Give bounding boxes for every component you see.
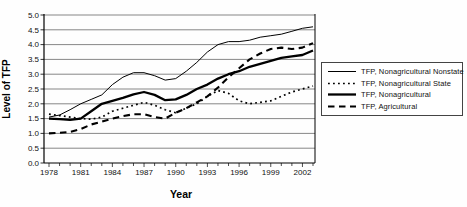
legend-label: TFP, Agricultural (361, 102, 417, 111)
legend-item: TFP, Agricultural (327, 101, 459, 112)
x-tick-label: 2002 (294, 168, 312, 177)
legend-item: TFP, Nonagricultural (327, 89, 459, 100)
legend-line-sample-thick-solid (327, 90, 357, 99)
y-tick-label: 4.0 (28, 40, 40, 49)
legend-line-sample-thin-solid (327, 67, 357, 76)
x-tick-label: 1978 (40, 168, 58, 177)
x-tick-label: 1993 (199, 168, 217, 177)
legend-item: TFP, Nonagricultural Nonstate (327, 66, 459, 77)
y-tick-label: 3.5 (28, 55, 40, 64)
chart-plot-area: 0.00.51.01.52.02.53.03.54.04.55.01978198… (28, 11, 315, 177)
tfp-line-chart-figure: 0.00.51.01.52.02.53.03.54.04.55.01978198… (0, 0, 467, 207)
legend-label: TFP, Nonagricultural State (361, 79, 451, 88)
y-tick-label: 1.5 (28, 114, 40, 123)
y-tick-label: 2.0 (28, 100, 40, 109)
legend-item: TFP, Nonagricultural State (327, 78, 459, 89)
chart-legend: TFP, Nonagricultural NonstateTFP, Nonagr… (321, 62, 463, 116)
x-tick-label: 1990 (167, 168, 185, 177)
series-line-dashed (49, 43, 313, 133)
legend-line-sample-dashed (327, 102, 357, 111)
x-tick-label: 1981 (72, 168, 90, 177)
x-tick-label: 1999 (262, 168, 280, 177)
legend-label: TFP, Nonagricultural (361, 90, 431, 99)
y-tick-label: 4.5 (28, 26, 40, 35)
x-tick-label: 1984 (103, 168, 121, 177)
x-axis-title: Year (170, 188, 192, 200)
y-axis-title: Level of TFP (1, 59, 12, 119)
legend-line-sample-dotted (327, 79, 357, 88)
x-tick-label: 1987 (135, 168, 153, 177)
legend-label: TFP, Nonagricultural Nonstate (361, 67, 464, 76)
y-tick-label: 1.0 (28, 129, 40, 138)
y-tick-label: 3.0 (28, 70, 40, 79)
y-tick-label: 2.5 (28, 85, 40, 94)
y-tick-label: 0.0 (28, 159, 40, 168)
y-tick-label: 0.5 (28, 144, 40, 153)
x-tick-label: 1996 (230, 168, 248, 177)
y-tick-label: 5.0 (28, 11, 40, 20)
